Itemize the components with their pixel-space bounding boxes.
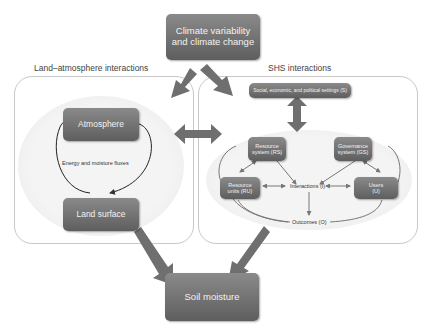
flux-label: Energy and moisture fluxes: [62, 160, 129, 166]
resource-system-box: Resource system (RS): [248, 137, 286, 161]
land-surface-label: Land surface: [76, 210, 125, 220]
governance-line2: system (GS): [338, 149, 369, 155]
users-line2: (U): [372, 188, 380, 194]
governance-system-box: Governance system (GS): [334, 137, 372, 161]
interactions-label: Interactions (I): [290, 183, 325, 189]
resource-units-line2: units (RU): [228, 188, 253, 194]
atmosphere-box: Atmosphere: [63, 108, 139, 141]
resource-units-box: Resource units (RU): [220, 177, 260, 199]
climate-variability-box: Climate variability and climate change: [166, 14, 260, 60]
users-box: Users (U): [354, 177, 398, 199]
resource-system-line2: system (RS): [252, 149, 282, 155]
climate-line2: and climate change: [172, 37, 254, 48]
atmosphere-label: Atmosphere: [78, 120, 124, 130]
settings-box: Social, economic, and political settings…: [249, 83, 351, 98]
land-surface-box: Land surface: [63, 198, 139, 231]
outcomes-label: Outcomes (O): [292, 219, 327, 225]
soil-moisture-box: Soil moisture: [165, 273, 259, 321]
settings-label: Social, economic, and political settings…: [253, 88, 347, 94]
soil-moisture-label: Soil moisture: [185, 292, 240, 303]
